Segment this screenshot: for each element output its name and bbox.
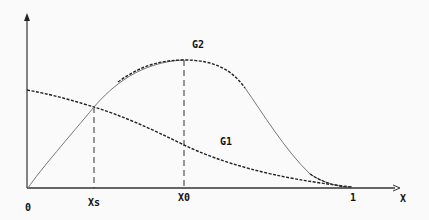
label-g1: G1 xyxy=(220,136,232,147)
label-one: 1 xyxy=(350,192,356,203)
label-x0: X0 xyxy=(178,192,190,203)
y-axis-arrow-icon xyxy=(24,13,30,21)
label-x-axis: X xyxy=(400,193,406,204)
curve-g2-rise xyxy=(28,60,184,188)
axes xyxy=(24,13,400,191)
label-xs: Xs xyxy=(88,197,100,208)
label-origin: 0 xyxy=(25,202,31,213)
curve-g1 xyxy=(27,90,352,187)
curve-g2-top xyxy=(118,60,245,88)
curves-diagram: G2 G1 0 Xs X0 1 X xyxy=(0,0,429,220)
label-g2: G2 xyxy=(192,39,204,50)
